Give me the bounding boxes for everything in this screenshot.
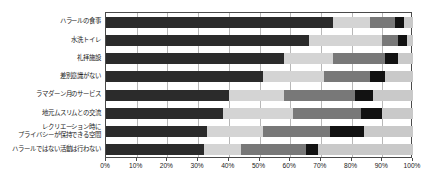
plot-area (105, 12, 412, 158)
x-tick-label: 40% (221, 162, 234, 169)
bar-segment (324, 71, 370, 82)
x-tick (351, 158, 352, 161)
bar-segment (373, 90, 413, 101)
bar-row (106, 90, 413, 101)
bar-row (106, 35, 413, 46)
stacked-bar-chart: ハラールの食事水洗トイレ礼拝施設差別意識がないラマダーン月のサービス地元ムスリム… (0, 0, 428, 187)
x-tick-label: 10% (129, 162, 142, 169)
bar-segment (318, 144, 413, 155)
x-tick-label: 50% (252, 162, 265, 169)
category-label: ハラールではない活動は行わない (0, 145, 101, 153)
bar-segment (355, 90, 373, 101)
bar-segment (395, 17, 404, 28)
bar-segment (385, 71, 413, 82)
bar-row (106, 71, 413, 82)
bar-segment (204, 144, 241, 155)
bar-segment (333, 53, 385, 64)
x-tick-label: 20% (160, 162, 173, 169)
bar-segment (293, 108, 361, 119)
bar-segment (333, 17, 370, 28)
bar-segment (361, 108, 382, 119)
x-tick-label: 90% (375, 162, 388, 169)
bar-segment (106, 71, 263, 82)
category-axis-labels: ハラールの食事水洗トイレ礼拝施設差別意識がないラマダーン月のサービス地元ムスリム… (0, 12, 104, 158)
category-label: 差別意識がない (0, 72, 101, 80)
x-tick (105, 158, 106, 161)
x-tick (228, 158, 229, 161)
bar-segment (382, 35, 397, 46)
bar-segment (223, 108, 294, 119)
x-tick (197, 158, 198, 161)
bar-row (106, 17, 413, 28)
category-label: ラマダーン月のサービス (0, 90, 101, 98)
x-tick-label: 30% (190, 162, 203, 169)
bar-segment (306, 144, 318, 155)
x-tick (381, 158, 382, 161)
category-label: レクリエーション時に プライバシーが保持できる空間 (0, 123, 101, 138)
x-axis: 0%10%20%30%40%50%60%70%80%90%100% (105, 158, 412, 180)
bar-segment (364, 126, 413, 137)
bar-segment (284, 90, 355, 101)
bar-segment (370, 71, 385, 82)
bar-segment (309, 35, 383, 46)
x-tick (259, 158, 260, 161)
bar-segment (370, 17, 395, 28)
bar-segment (207, 126, 262, 137)
x-tick (289, 158, 290, 161)
x-tick-label: 0% (100, 162, 110, 169)
bar-segment (106, 35, 309, 46)
bar-row (106, 126, 413, 137)
bar-row (106, 53, 413, 64)
x-tick-label: 80% (344, 162, 357, 169)
x-tick-label: 60% (283, 162, 296, 169)
bar-row (106, 108, 413, 119)
bar-segment (407, 35, 413, 46)
category-label: ハラールの食事 (0, 17, 101, 25)
bar-segment (106, 90, 229, 101)
bar-segment (284, 53, 333, 64)
bar-segment (106, 53, 284, 64)
x-tick-label: 70% (313, 162, 326, 169)
bar-segment (385, 53, 397, 64)
x-tick (320, 158, 321, 161)
x-tick-label: 100% (404, 162, 421, 169)
category-label: 礼拝施設 (0, 54, 101, 62)
bar-segment (106, 17, 333, 28)
bar-segment (263, 126, 331, 137)
bar-row (106, 144, 413, 155)
category-label: 地元ムスリムとの交流 (0, 109, 101, 117)
x-tick (136, 158, 137, 161)
bar-segment (241, 144, 305, 155)
category-label: 水洗トイレ (0, 36, 101, 44)
bar-segment (229, 90, 284, 101)
bar-segment (106, 126, 207, 137)
bar-segment (106, 144, 204, 155)
bar-segment (330, 126, 364, 137)
bar-segment (106, 108, 223, 119)
bar-segment (398, 35, 407, 46)
bar-segment (263, 71, 324, 82)
x-tick (412, 158, 413, 161)
bar-segment (398, 53, 413, 64)
bar-segment (404, 17, 413, 28)
x-tick (166, 158, 167, 161)
bar-segment (382, 108, 413, 119)
